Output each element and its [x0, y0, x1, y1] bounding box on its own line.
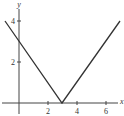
chart-canvas: 2 4 6 2 4 x y [0, 0, 124, 116]
x-tick-label-2: 2 [46, 107, 50, 116]
y-tick-label-4: 4 [11, 17, 15, 26]
x-tick-label-4: 4 [75, 107, 79, 116]
v-shaped-line-chart: 2 4 6 2 4 x y [0, 0, 124, 116]
x-tick-label-6: 6 [104, 107, 108, 116]
function-line [5, 21, 120, 103]
y-tick-label-2: 2 [11, 58, 15, 67]
y-axis-label: y [16, 0, 21, 9]
x-axis-label: x [119, 97, 124, 106]
